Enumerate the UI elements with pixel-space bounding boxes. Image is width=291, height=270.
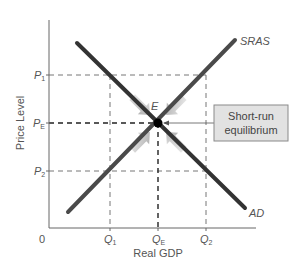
- arrow-down-left-icon: [160, 92, 189, 121]
- callout-line-2: equilibrium: [224, 124, 277, 136]
- equilibrium-label: E: [151, 100, 159, 112]
- origin-label: 0: [39, 233, 45, 245]
- ad-label: AD: [248, 207, 264, 219]
- y-tick-label-p1: P1: [34, 69, 45, 82]
- sras-ad-diagram: E Short-run equilibrium SRAS AD P1 PE P2…: [0, 0, 291, 270]
- x-tick-label-q2: Q2: [200, 233, 213, 246]
- callout-arrowhead-icon: [163, 121, 169, 126]
- x-tick-label-qe: QE: [152, 233, 166, 246]
- y-tick-label-pe: PE: [33, 117, 45, 130]
- callout-line-1: Short-run: [228, 110, 274, 122]
- sras-label: SRAS: [240, 35, 271, 47]
- y-tick-label-p2: P2: [34, 165, 45, 178]
- x-axis-title: Real GDP: [133, 247, 183, 259]
- y-axis-title: Price Level: [14, 96, 26, 150]
- x-tick-label-q1: Q1: [104, 233, 117, 246]
- arrow-up-right-icon: [127, 126, 156, 155]
- sras-curve: [68, 40, 235, 212]
- equilibrium-point: [154, 119, 163, 128]
